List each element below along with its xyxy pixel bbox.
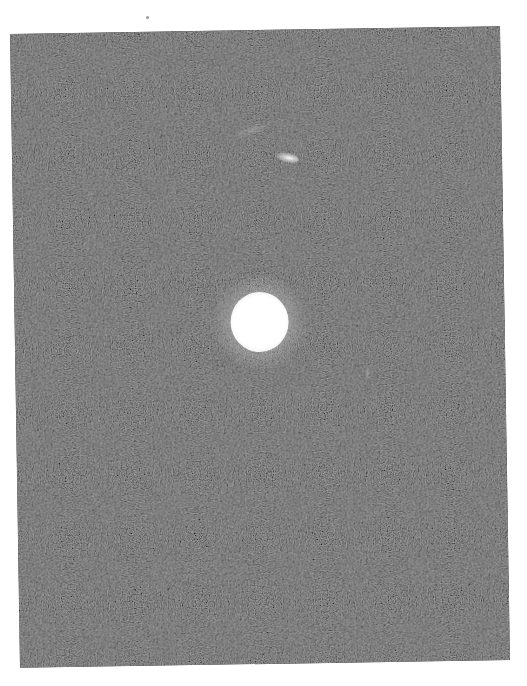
faint-mark — [365, 366, 370, 380]
astronomical-photo — [10, 26, 510, 668]
scan-dust-dot — [146, 16, 149, 19]
